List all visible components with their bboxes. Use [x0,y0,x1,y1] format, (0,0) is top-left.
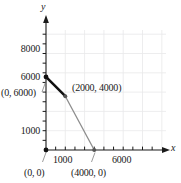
point-label-middle: (2000, 4000) [72,83,121,93]
point-marker-origin [44,148,49,153]
x-tick-label-6000: 6000 [112,155,131,165]
point-label-y-intercept: (0, 6000) [1,88,36,98]
point-label-x-intercept: (4000, 0) [71,168,106,178]
segment-secondary [65,96,94,150]
y-tick-label-6000: 6000 [2,72,40,82]
y-axis-label: y [41,2,45,12]
x-tick-label-1000: 1000 [53,155,72,165]
y-tick-label-1000: 1000 [2,126,40,136]
x-axis-label: x [171,143,175,153]
leader-line-origin [43,153,47,163]
point-label-origin: (0, 0) [24,168,44,178]
point-marker-x-intercept [92,148,96,152]
x-axis [46,147,170,153]
point-marker-middle [63,94,67,98]
leader-line-x-intercept [92,153,96,163]
segment-primary [46,77,65,96]
y-tick-label-8000: 8000 [2,44,40,54]
graph-figure: 8000 6000 1000 1000 6000 y x (0, 6000) (… [0,0,181,183]
point-marker-y-intercept [44,75,49,80]
